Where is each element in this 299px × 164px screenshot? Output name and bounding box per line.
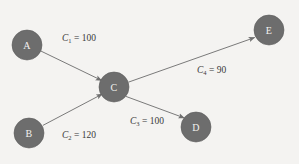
edge-label-c2-value: 120 (82, 130, 96, 140)
edge-c-to-d (126, 96, 185, 118)
node-d[interactable]: D (181, 112, 211, 142)
node-e[interactable]: E (254, 15, 284, 45)
node-e-label: E (266, 25, 272, 36)
edge-a-to-c (41, 51, 102, 81)
edge-label-c3: C3 = 100 (130, 117, 164, 127)
edge-label-c3-subscript: 3 (136, 120, 139, 127)
edge-label-c4-subscript: 4 (203, 69, 206, 76)
edge-label-c4: C4 = 90 (197, 66, 226, 76)
edge-label-c2-subscript: 2 (68, 134, 71, 141)
edge-c-to-e (129, 38, 255, 83)
edge-label-c4-value: 90 (217, 65, 227, 75)
edge-label-c3-value: 100 (150, 116, 164, 126)
node-c-label: C (111, 82, 118, 93)
node-a-label: A (23, 40, 31, 51)
edge-label-c1: C1 = 100 (62, 34, 96, 44)
node-b-label: B (26, 128, 33, 139)
edge-label-c1-value: 100 (82, 33, 96, 43)
node-b[interactable]: B (14, 118, 44, 148)
network-diagram: A B C D E C1 = 100 C2 = 120 (0, 0, 299, 164)
node-group: A B C D E (12, 15, 284, 148)
edge-label-c1-subscript: 1 (68, 37, 71, 44)
node-d-label: D (192, 122, 200, 133)
node-a[interactable]: A (12, 30, 42, 60)
edge-label-c2: C2 = 120 (62, 131, 96, 141)
edge-b-to-c (43, 94, 103, 125)
graph-canvas: A B C D E (0, 0, 299, 164)
edge-group (41, 38, 255, 126)
node-c[interactable]: C (99, 72, 129, 102)
